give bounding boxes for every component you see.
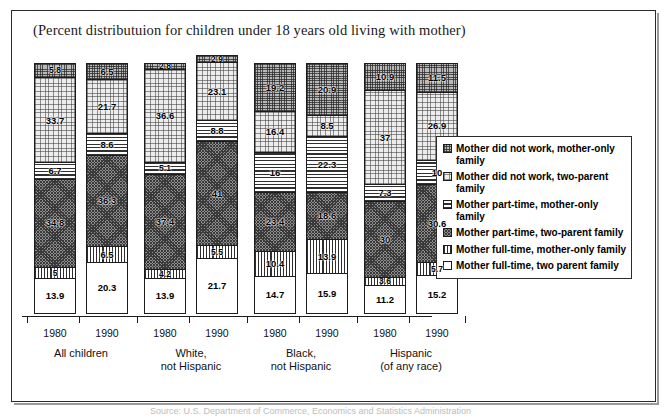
bar-column[interactable]: 2.923.18.8415.521.7 [196, 56, 238, 314]
bar-segment[interactable]: 13.9 [144, 278, 186, 314]
bar-segment-value: 5.1 [159, 164, 171, 173]
bar-segment-value: 10.4 [266, 259, 285, 269]
bar-column[interactable]: 20.98.522.318.613.915.9 [306, 64, 348, 314]
bar-segment[interactable]: 37.4 [144, 174, 186, 270]
bar-segment[interactable]: 8.5 [306, 115, 348, 137]
bar-segment[interactable]: 16.4 [254, 111, 296, 153]
bar-segment-value: 10.9 [376, 72, 395, 82]
x-axis-group-label: All children [21, 347, 141, 360]
bar-segment[interactable]: 37 [364, 90, 406, 185]
group-label-line-1: Black, [241, 347, 361, 360]
bar-segment[interactable]: 10.4 [254, 251, 296, 278]
bar-segment[interactable]: 6.5 [86, 246, 128, 263]
x-axis-year-label: 1980 [359, 327, 411, 339]
bar-segment-value: 20.9 [318, 85, 337, 95]
bar-segment[interactable]: 16 [254, 152, 296, 193]
bar-segment-value: 7.3 [378, 188, 391, 198]
bar-segment[interactable]: 8.8 [196, 120, 238, 143]
bar-segment-value: 14.7 [266, 290, 285, 300]
bar-segment[interactable]: 8.6 [86, 133, 128, 155]
bar-segment[interactable]: 6.5 [86, 63, 128, 80]
x-axis-tick [357, 316, 358, 323]
bar-segment-value: 5.5 [211, 248, 223, 257]
group-label-line-2: (of any race) [351, 360, 471, 373]
bar-segment[interactable]: 14.7 [254, 276, 296, 314]
bar-column[interactable]: 19.216.41623.410.414.7 [254, 64, 296, 314]
legend-swatch-icon [443, 200, 452, 209]
bar-segment[interactable]: 20.3 [86, 262, 128, 314]
x-axis-year-label: 1990 [191, 327, 243, 339]
bar-segment-value: 5 [53, 269, 58, 278]
legend-item[interactable]: Mother part-time, mother-only family [442, 199, 626, 222]
x-axis-tick [27, 316, 28, 323]
chart-legend: Mother did not work, mother-only familyM… [436, 136, 632, 279]
legend-swatch-icon [443, 228, 452, 237]
legend-swatch-icon [443, 245, 452, 254]
bar-segment-value: 37.4 [156, 217, 175, 227]
bar-segment[interactable]: 36.3 [86, 155, 128, 248]
bar-segment[interactable]: 7.3 [364, 184, 406, 203]
bar-segment[interactable]: 15.9 [306, 273, 348, 314]
bar-segment-value: 8.8 [210, 126, 223, 136]
bar-segment[interactable]: 21.7 [196, 258, 238, 314]
legend-item-label: Mother full-time, two parent family [456, 260, 619, 272]
x-axis-line [22, 316, 432, 317]
bar-segment-value: 23.4 [266, 217, 285, 227]
legend-item[interactable]: Mother part-time, two-parent family [442, 227, 626, 239]
legend-item[interactable]: Mother did not work, two-parent family [442, 171, 626, 194]
bar-segment-value: 26.9 [428, 121, 447, 131]
group-label-line-1: All children [21, 347, 141, 360]
bar-segment-value: 21.7 [208, 281, 227, 291]
bar-column[interactable]: 10.9377.3303.611.2 [364, 64, 406, 314]
bar-segment[interactable]: 34.8 [34, 179, 76, 268]
x-axis-tick [465, 316, 466, 323]
x-axis-group-label: White,not Hispanic [131, 347, 251, 373]
bar-segment[interactable]: 41 [196, 141, 238, 246]
bar-segment[interactable]: 23.1 [196, 62, 238, 121]
bar-segment[interactable]: 36.6 [144, 69, 186, 163]
bar-segment-value: 13.9 [156, 291, 175, 301]
bar-segment[interactable]: 5.8 [34, 63, 76, 78]
bar-segment-value: 3.6 [379, 277, 391, 286]
bar-segment-value: 6.5 [100, 250, 113, 260]
bar-segment[interactable]: 6.7 [34, 162, 76, 179]
x-axis-year-label: 1980 [139, 327, 191, 339]
bar-segment-value: 30.6 [428, 219, 447, 229]
bar-segment[interactable]: 30 [364, 201, 406, 278]
legend-item[interactable]: Mother full-time, two parent family [442, 260, 626, 272]
bar-segment[interactable]: 10.9 [364, 63, 406, 91]
bar-column[interactable]: 5.833.76.734.8513.9 [34, 64, 76, 314]
bar-segment[interactable]: 11.2 [364, 285, 406, 314]
bar-segment-value: 16.4 [266, 127, 285, 137]
bar-segment[interactable]: 11.5 [416, 63, 458, 92]
legend-item-label: Mother did not work, mother-only family [456, 143, 626, 166]
bar-segment[interactable]: 20.9 [306, 63, 348, 117]
bar-segment-value: 5.7 [431, 265, 443, 274]
bar-column[interactable]: 2.836.65.137.44.213.9 [144, 64, 186, 314]
bar-segment-value: 11.5 [428, 73, 446, 83]
bar-segment-value: 34.8 [46, 218, 65, 228]
x-axis-tick [189, 316, 190, 323]
bar-segment[interactable]: 13.9 [306, 239, 348, 275]
bar-segment[interactable]: 15.2 [416, 275, 458, 314]
legend-swatch-icon [443, 144, 452, 153]
bar-segment-value: 33.7 [46, 116, 65, 126]
bar-segment[interactable]: 5.5 [196, 245, 238, 259]
bar-segment-value: 6.7 [48, 166, 61, 176]
bar-segment-value: 5.8 [49, 66, 61, 75]
bar-segment[interactable]: 18.6 [306, 192, 348, 240]
legend-item[interactable]: Mother did not work, mother-only family [442, 143, 626, 166]
group-label-line-1: White, [131, 347, 251, 360]
footer-source-note: Source: U.S. Department of Commerce, Eco… [150, 406, 670, 418]
bar-segment[interactable]: 13.9 [34, 278, 76, 314]
legend-item[interactable]: Mother full-time, mother-only family [442, 244, 626, 256]
bar-segment[interactable]: 22.3 [306, 136, 348, 193]
bar-segment[interactable]: 33.7 [34, 77, 76, 163]
bar-column[interactable]: 6.521.78.636.36.520.3 [86, 64, 128, 314]
bar-segment[interactable]: 21.7 [86, 79, 128, 135]
x-axis-tick [247, 316, 248, 323]
bar-segment[interactable]: 23.4 [254, 192, 296, 252]
bar-segment[interactable]: 19.2 [254, 63, 296, 112]
legend-item-label: Mother did not work, two-parent family [456, 171, 626, 194]
x-axis-year-label: 1990 [81, 327, 133, 339]
